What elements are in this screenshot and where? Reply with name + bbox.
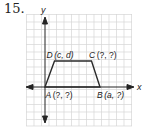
svg-text:B(a, ?): B(a, ?) [97,90,124,100]
vertex-B-name: B [97,90,103,100]
trapezoid [45,61,100,87]
vertex-B-coords: (a, ?) [104,90,124,100]
grid [26,14,132,126]
vertex-C-coords: (?, ?) [97,50,117,60]
y-axis-up-arrow-icon [43,17,48,24]
vertex-D-coords: (c, d) [54,50,74,60]
x-axis-right-arrow-icon [127,85,134,90]
y-axis-label: y [40,5,46,15]
svg-text:D(c, d): D(c, d) [47,50,74,60]
vertex-D-name: D [47,50,53,60]
vertex-label-B: B(a, ?) [97,90,124,100]
vertex-label-A: A(?, ?) [45,90,73,100]
vertex-label-C: C(?, ?) [89,50,117,60]
vertex-A-name: A [45,90,52,100]
x-axis-left-arrow-icon [26,85,33,90]
svg-text:C(?, ?): C(?, ?) [89,50,117,60]
vertex-C-name: C [89,50,96,60]
y-axis-down-arrow-icon [43,116,48,123]
x-axis-label: x [136,82,142,92]
vertex-A-coords: (?, ?) [53,90,73,100]
coordinate-plane: x y D(c, d) C(?, ?) A(?, ?) B(a, ?) [0,0,148,132]
vertex-label-D: D(c, d) [47,50,74,60]
svg-text:A(?, ?): A(?, ?) [45,90,73,100]
y-axis [43,17,48,123]
